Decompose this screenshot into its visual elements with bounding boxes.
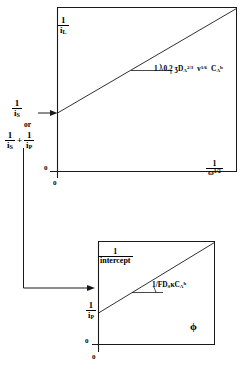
lower-plot-slope-annotation: 1/FDSκCAb: [152, 281, 186, 288]
lower-plot-y-axis-label: 1 intercept: [98, 248, 133, 266]
upper-plot-intercept-label-secondary: 1 iS + 1 iP: [5, 131, 34, 151]
upper-plot-origin-x-tick: 0: [53, 179, 57, 187]
lower-plot-origin-x-tick: 0: [92, 353, 96, 361]
intercept-alternatives-conjunction: or: [24, 121, 31, 129]
viscosity-exponent: 1/6: [201, 65, 207, 70]
denominator-subscript: L: [63, 30, 67, 36]
upper-plot-x-axis-label: 1 ω1/2: [206, 160, 223, 178]
fraction-one-over-omega-half: 1 ω1/2: [206, 160, 223, 178]
denominator-subscript: P: [90, 314, 94, 320]
denominator: iP: [86, 311, 96, 320]
fraction-one-over-iS: 1 iS: [12, 99, 22, 119]
upper-plot-data-line: [58, 9, 237, 114]
upper-plot-y-axis-label: 1 iL: [58, 16, 69, 36]
connector-arrow-head: [87, 285, 95, 291]
denominator: iP: [24, 141, 34, 150]
upper-plot-origin-y-tick: 0: [44, 164, 48, 172]
fraction-one-over-intercept: 1 intercept: [98, 248, 133, 266]
diffusion-exponent: 2/3: [187, 65, 193, 70]
fraction-one-over-iS-term: 1 iS: [5, 131, 15, 151]
fraction-one-over-iP: 1 iP: [86, 301, 96, 320]
omega-exponent: 1/2: [214, 168, 221, 174]
slope-prefix: 1/FD: [152, 280, 168, 289]
upper-plot-intercept-label-primary: 1 iS: [12, 99, 22, 119]
diagram-svg: [0, 0, 248, 371]
denominator: intercept: [98, 257, 133, 265]
lower-plot-x-axis-label: ϕ: [190, 321, 197, 332]
fraction-one-over-iP-term: 1 iP: [24, 131, 34, 151]
denominator-subscript: P: [29, 145, 33, 151]
concentration-exponent: b: [183, 281, 186, 286]
lower-plot-origin-y-tick: 0: [85, 337, 89, 345]
slope-prefix: 1 / 0.2: [154, 64, 175, 73]
lower-plot-intercept-label: 1 iP: [86, 301, 96, 320]
denominator: iL: [58, 26, 69, 35]
plus-operator: +: [15, 136, 24, 145]
intercept-arrow-head: [50, 110, 58, 116]
concentration-exponent: b: [220, 65, 223, 70]
denominator: iS: [12, 109, 22, 118]
figure-canvas: 1 iL 1 / 0.2 ʒDA2/3 ν1/6 CAb 1 ω1/2 1 iS…: [0, 0, 248, 371]
denominator-subscript: S: [17, 113, 20, 119]
denominator: ω1/2: [206, 169, 223, 177]
upper-plot-frame: [58, 8, 237, 172]
denominator: iS: [5, 141, 15, 150]
upper-plot-slope-annotation: 1 / 0.2 ʒDA2/3 ν1/6 CAb: [154, 65, 223, 72]
denominator-subscript: S: [10, 145, 13, 151]
fraction-one-over-iL: 1 iL: [58, 16, 69, 36]
